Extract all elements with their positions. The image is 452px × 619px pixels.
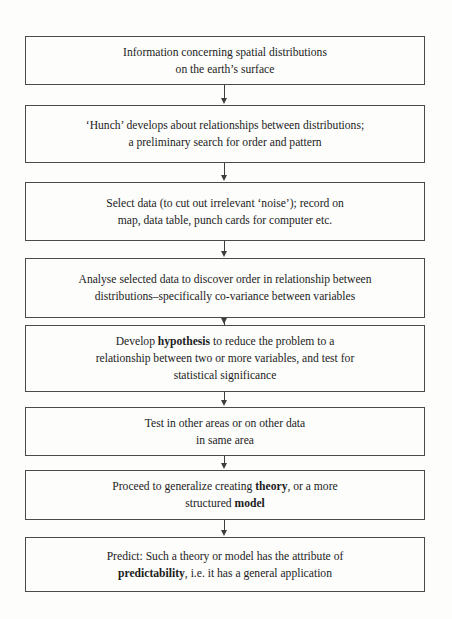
flow-box-text: Information concerning spatial distribut…	[40, 44, 410, 78]
flow-box-text: Proceed to generalize creating theory, o…	[40, 478, 410, 512]
arrowhead-icon-6	[221, 463, 227, 469]
arrowhead-icon-1	[221, 98, 227, 104]
arrowhead-icon-5	[221, 400, 227, 406]
flowchart-diagram: Information concerning spatial distribut…	[0, 0, 452, 619]
flow-box-predict: Predict: Such a theory or model has the …	[25, 537, 425, 592]
arrowhead-icon-2	[221, 175, 227, 181]
flow-box-generalize: Proceed to generalize creating theory, o…	[25, 470, 425, 520]
arrowhead-icon-4	[221, 318, 227, 324]
flow-box-text: Select data (to cut out irrelevant ‘nois…	[40, 195, 410, 229]
arrowhead-icon-3	[221, 251, 227, 257]
flow-box-hypothesis: Develop hypothesis to reduce the problem…	[25, 325, 425, 392]
flow-box-text: ‘Hunch’ develops about relationships bet…	[40, 117, 410, 151]
flow-box-test: Test in other areas or on other datain s…	[25, 407, 425, 456]
flow-box-text: Analyse selected data to discover order …	[40, 271, 410, 305]
flow-box-information: Information concerning spatial distribut…	[25, 36, 425, 85]
flow-box-select-data: Select data (to cut out irrelevant ‘nois…	[25, 182, 425, 241]
flow-box-text: Test in other areas or on other datain s…	[40, 415, 410, 449]
connector-line-1	[224, 85, 225, 99]
arrowhead-icon-7	[221, 530, 227, 536]
flow-box-analyse: Analyse selected data to discover order …	[25, 258, 425, 318]
flow-box-text: Predict: Such a theory or model has the …	[40, 548, 410, 582]
flow-box-hunch: ‘Hunch’ develops about relationships bet…	[25, 105, 425, 163]
flow-box-text: Develop hypothesis to reduce the problem…	[40, 333, 410, 384]
